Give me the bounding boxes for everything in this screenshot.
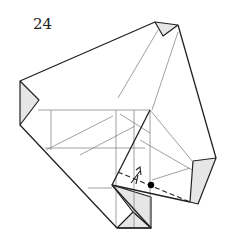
right-flap bbox=[190, 158, 216, 204]
outline-top-left bbox=[20, 22, 155, 81]
crease-lines bbox=[38, 30, 193, 228]
outline-left-lower bbox=[20, 125, 117, 228]
top-flap bbox=[155, 22, 178, 36]
fold-arrow-icon bbox=[131, 167, 141, 184]
outline bbox=[20, 22, 216, 228]
outline-right-edge bbox=[178, 25, 216, 158]
left-flap bbox=[20, 81, 39, 125]
reference-dot-icon bbox=[148, 182, 154, 188]
origami-diagram bbox=[0, 0, 230, 239]
